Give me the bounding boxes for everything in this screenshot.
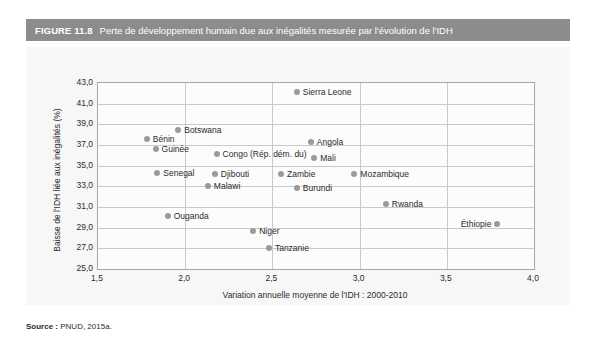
data-point-label: Congo (Rép. dém. du) bbox=[223, 148, 307, 160]
y-tick-label: 39,0 bbox=[76, 118, 93, 128]
y-tick-label: 33,0 bbox=[76, 180, 93, 190]
y-tick-label: 43,0 bbox=[76, 77, 93, 87]
data-point-marker bbox=[153, 146, 159, 152]
plot-area: Sierra LeoneBotswanaBéninAngolaGuinéeCon… bbox=[97, 82, 535, 270]
y-tick-label: 25,0 bbox=[76, 263, 93, 273]
data-point-marker bbox=[214, 151, 220, 157]
data-point-label: Senegal bbox=[163, 167, 194, 179]
gridline-horizontal bbox=[98, 248, 534, 249]
data-point-label: Malawi bbox=[214, 180, 240, 192]
data-point-marker bbox=[311, 155, 317, 161]
y-axis-label-wrapper: Baisse de l'IDH liée aux inégalités (%) bbox=[36, 82, 50, 268]
data-point-marker bbox=[266, 245, 272, 251]
data-point-label: Angola bbox=[317, 136, 343, 148]
gridline-vertical bbox=[447, 83, 448, 269]
data-point-marker bbox=[294, 89, 300, 95]
data-point-label: Ouganda bbox=[174, 210, 209, 222]
data-point-marker bbox=[250, 228, 256, 234]
source-note: Source : PNUD, 2015a. bbox=[26, 322, 112, 331]
y-tick-label: 35,0 bbox=[76, 160, 93, 170]
data-point-label: Éthiopie bbox=[461, 218, 492, 230]
data-point-marker bbox=[308, 139, 314, 145]
data-point-label: Tanzanie bbox=[275, 242, 309, 254]
source-value: PNUD, 2015a. bbox=[58, 322, 112, 331]
y-tick-label: 27,0 bbox=[76, 242, 93, 252]
data-point-label: Zambie bbox=[287, 168, 315, 180]
data-point-label: Botswana bbox=[184, 124, 221, 136]
data-point-marker bbox=[175, 127, 181, 133]
x-tick-label: 2,0 bbox=[178, 273, 190, 283]
data-point-label: Burundi bbox=[303, 182, 332, 194]
figure-number: FIGURE 11.8 bbox=[35, 25, 93, 36]
x-axis-label: Variation annuelle moyenne de l'IDH : 20… bbox=[97, 290, 533, 300]
y-tick-label: 31,0 bbox=[76, 201, 93, 211]
data-point-marker bbox=[294, 185, 300, 191]
x-tick-label: 3,5 bbox=[440, 273, 452, 283]
x-tick-label: 1,5 bbox=[91, 273, 103, 283]
x-tick-label: 2,5 bbox=[265, 273, 277, 283]
gridline-horizontal bbox=[98, 124, 534, 125]
data-point-label: Djibouti bbox=[221, 168, 249, 180]
data-point-marker bbox=[205, 183, 211, 189]
gridline-vertical bbox=[272, 83, 273, 269]
x-axis-ticks: 1,52,02,53,03,54,0 bbox=[97, 273, 533, 287]
data-point-marker bbox=[351, 171, 357, 177]
data-point-label: Mozambique bbox=[360, 168, 409, 180]
y-axis-ticks: 25,027,029,031,033,035,037,039,041,043,0 bbox=[50, 82, 93, 268]
data-point-label: Guinée bbox=[162, 143, 189, 155]
data-point-label: Sierra Leone bbox=[303, 86, 352, 98]
chart-panel: Baisse de l'IDH liée aux inégalités (%) … bbox=[26, 47, 570, 305]
y-tick-label: 41,0 bbox=[76, 98, 93, 108]
data-point-label: Rwanda bbox=[392, 198, 423, 210]
data-point-marker bbox=[154, 170, 160, 176]
source-label: Source : bbox=[26, 322, 58, 331]
x-tick-label: 4,0 bbox=[527, 273, 539, 283]
figure-title-bar: FIGURE 11.8 Perte de développement humai… bbox=[26, 19, 570, 41]
data-point-marker bbox=[212, 171, 218, 177]
data-point-label: Niger bbox=[259, 225, 279, 237]
y-tick-label: 37,0 bbox=[76, 139, 93, 149]
page-title: Perte de développement humain due aux in… bbox=[100, 25, 453, 36]
data-point-marker bbox=[383, 201, 389, 207]
gridline-horizontal bbox=[98, 207, 534, 208]
data-point-marker bbox=[165, 213, 171, 219]
data-point-marker bbox=[494, 221, 500, 227]
figure-container: FIGURE 11.8 Perte de développement humai… bbox=[0, 0, 596, 358]
data-point-marker bbox=[278, 171, 284, 177]
gridline-horizontal bbox=[98, 104, 534, 105]
data-point-label: Mali bbox=[320, 152, 336, 164]
y-tick-label: 29,0 bbox=[76, 222, 93, 232]
x-tick-label: 3,0 bbox=[353, 273, 365, 283]
data-point-marker bbox=[144, 136, 150, 142]
